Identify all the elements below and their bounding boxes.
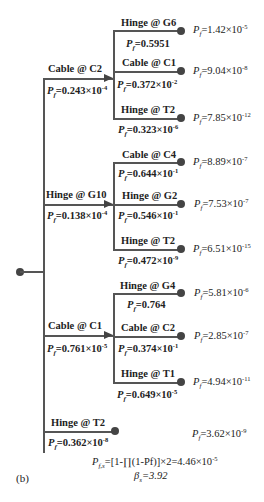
arrow-icon: [104, 74, 113, 82]
leaf-1-3-pf: Pf=0.323×10-6: [118, 124, 178, 136]
leaf-3-3-result: Pf=4.94×10-11: [193, 376, 251, 388]
system-failure-formula: Pf,s=[1-∏(1-Pf)]×2=4.46×10-5: [92, 456, 218, 468]
leaf-1-3-label: Hinge @ T2: [121, 104, 175, 116]
leaf-3-1-line: [113, 293, 180, 295]
leaf-1-2-result: Pf=9.04×10-8: [193, 65, 248, 77]
leaf-2-3-line: [113, 249, 180, 251]
branch-1-split: [113, 30, 115, 119]
branch-4-label: Hinge @ T2: [51, 417, 105, 429]
leaf-1-1-node: [177, 27, 185, 35]
leaf-2-3-label: Hinge @ T2: [121, 235, 175, 247]
leaf-2-1-result: Pf=8.89×10-7: [193, 156, 248, 168]
leaf-3-2-line: [113, 336, 180, 338]
leaf-2-1-line: [113, 162, 180, 164]
leaf-3-3-line: [113, 382, 180, 384]
branch-4-pf: Pf=0.362×10-8: [48, 437, 108, 449]
branch-1-pf: Pf=0.243×10-4: [47, 85, 107, 97]
leaf-2-3-node: [177, 245, 185, 253]
leaf-1-2-node: [177, 67, 185, 75]
root-link: [20, 271, 44, 273]
leaf-1-3-node: [177, 114, 185, 122]
leaf-2-1-node: [177, 158, 185, 166]
branch-3-label: Cable @ C1: [48, 320, 102, 332]
leaf-2-1-label: Cable @ C4: [122, 149, 176, 161]
arrow-icon: [104, 331, 113, 339]
branch-2-label: Hinge @ G10: [46, 189, 107, 201]
leaf-1-2-pf: Pf=0.372×10-2: [117, 79, 177, 91]
leaf-2-2-node: [177, 200, 185, 208]
leaf-2-3-result: Pf=6.51×10-15: [193, 243, 251, 255]
branch-2-pf: Pf=0.138×10-4: [47, 210, 107, 222]
leaf-3-2-label: Cable @ C2: [121, 322, 175, 334]
branch-1-label: Cable @ C2: [48, 63, 102, 75]
leaf-2-3-pf: Pf=0.472×10-9: [118, 255, 178, 267]
figure-label: (b): [16, 472, 29, 484]
branch-1-line: [43, 78, 113, 80]
leaf-3-2-node: [177, 332, 185, 340]
leaf-3-3-pf: Pf=0.649×10-5: [117, 389, 177, 401]
reliability-index: βs=3.92: [134, 470, 167, 482]
leaf-3-1-pf: Pf=0.764: [127, 299, 165, 311]
leaf-1-1-line: [113, 30, 180, 32]
leaf-1-1-label: Hinge @ G6: [121, 17, 176, 29]
leaf-3-1-label: Hinge @ G4: [120, 280, 175, 292]
branch-2-line: [43, 204, 113, 206]
branch-4-line: [43, 431, 115, 433]
leaf-3-3-label: Hinge @ T1: [121, 368, 175, 380]
branch-3-split: [113, 293, 115, 383]
leaf-1-1-result: Pf=1.42×10-5: [193, 24, 248, 36]
branch-2-split: [113, 162, 115, 250]
leaf-2-2-result: Pf=7.53×10-7: [194, 198, 249, 210]
leaf-2-2-pf: Pf=0.546×10-1: [118, 210, 178, 222]
leaf-2-2-label: Hinge @ G2: [122, 190, 177, 202]
leaf-3-2-result: Pf=2.85×10-7: [194, 330, 249, 342]
trunk-line: [43, 78, 45, 453]
leaf-1-2-line: [113, 71, 180, 73]
leaf-1-3-line: [113, 118, 180, 120]
leaf-1-2-label: Cable @ C1: [122, 57, 176, 69]
leaf-3-1-result: Pf=5.81×10-6: [194, 287, 249, 299]
leaf-1-3-result: Pf=7.85×10-12: [193, 112, 251, 124]
branch-3-line: [43, 335, 113, 337]
event-tree-diagram: Cable @ C2 Pf=0.243×10-4 Hinge @ G6 Pf=0…: [0, 0, 264, 502]
branch-4-result: Pf=3.62×10-9: [192, 428, 247, 440]
branch-3-pf: Pf=0.761×10-5: [47, 343, 107, 355]
leaf-3-2-pf: Pf=0.374×10-1: [118, 343, 178, 355]
branch-4-node: [111, 427, 119, 435]
leaf-3-1-node: [177, 289, 185, 297]
leaf-3-3-node: [177, 378, 185, 386]
leaf-2-1-pf: Pf=0.644×10-1: [118, 168, 178, 180]
leaf-1-1-pf: Pf=0.5951: [126, 38, 170, 50]
arrow-icon: [104, 200, 113, 208]
leaf-2-2-line: [113, 204, 180, 206]
